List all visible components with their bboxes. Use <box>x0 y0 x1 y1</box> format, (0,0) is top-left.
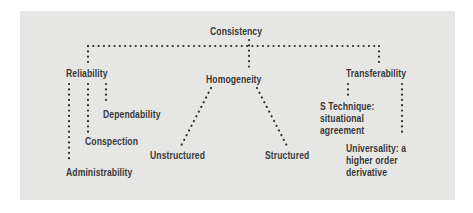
node-conspection: Conspection <box>85 135 138 147</box>
node-structured: Structured <box>265 149 309 161</box>
node-homogeneity: Homogeneity <box>206 73 261 85</box>
node-reliability: Reliability <box>66 67 108 79</box>
node-universality: Universality: a higher order derivative <box>346 142 406 178</box>
node-s-technique: S Technique: situational agreement <box>320 100 374 136</box>
universality-line-3: derivative <box>346 166 406 178</box>
node-dependability: Dependability <box>103 108 161 120</box>
node-administrability: Administrability <box>66 166 132 178</box>
s-technique-line-2: situational <box>320 112 374 124</box>
node-unstructured: Unstructured <box>150 149 205 161</box>
s-technique-line-1: S Technique: <box>320 100 374 112</box>
node-consistency: Consistency <box>210 25 262 37</box>
s-technique-line-3: agreement <box>320 124 374 136</box>
universality-line-1: Universality: a <box>346 142 406 154</box>
connector-homogeneity-unstructured <box>181 88 211 146</box>
connector-homogeneity-structured <box>257 88 287 146</box>
universality-line-2: higher order <box>346 154 406 166</box>
node-transferability: Transferability <box>346 67 406 79</box>
